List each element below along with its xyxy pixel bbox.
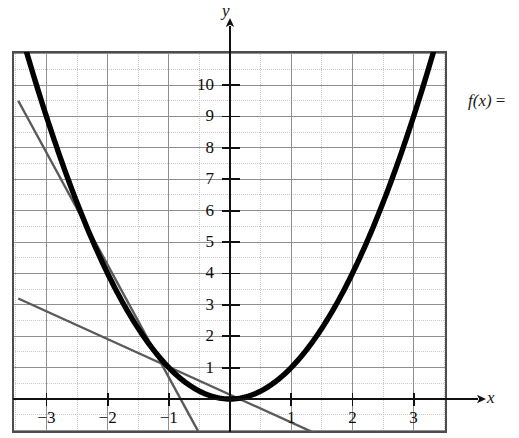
y-tick-label: 6 bbox=[188, 202, 214, 219]
figure-background bbox=[0, 0, 519, 438]
function-formula: f(x) = bbox=[468, 92, 505, 109]
x-tick-label: −3 bbox=[32, 409, 60, 426]
formula-equals: = bbox=[492, 91, 506, 110]
coordinate-plot bbox=[0, 0, 519, 438]
y-tick-label: 4 bbox=[188, 264, 214, 281]
y-tick-label: 5 bbox=[188, 233, 214, 250]
x-tick-label: −2 bbox=[94, 409, 122, 426]
y-axis-label: y bbox=[222, 2, 230, 19]
y-tick-label: 10 bbox=[188, 76, 214, 93]
x-tick-label: 2 bbox=[338, 409, 366, 426]
graph-figure: y x −3−2−1123 12345678910 f(x) = bbox=[0, 0, 519, 438]
x-tick-label: −1 bbox=[155, 409, 183, 426]
x-tick-label: 3 bbox=[400, 409, 428, 426]
y-tick-label: 1 bbox=[188, 359, 214, 376]
y-tick-label: 9 bbox=[188, 107, 214, 124]
y-tick-label: 7 bbox=[188, 170, 214, 187]
y-tick-label: 2 bbox=[188, 327, 214, 344]
x-axis-label: x bbox=[487, 389, 495, 406]
formula-function-name: f(x) bbox=[468, 91, 492, 110]
y-tick-label: 8 bbox=[188, 139, 214, 156]
x-tick-label: 1 bbox=[277, 409, 305, 426]
y-tick-label: 3 bbox=[188, 296, 214, 313]
